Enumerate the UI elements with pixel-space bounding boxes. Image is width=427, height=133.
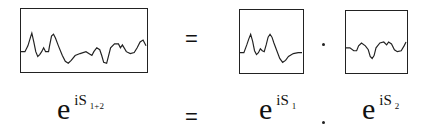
waveform-1-curve (240, 10, 303, 73)
term-2-exponent: iS (379, 92, 392, 108)
term-1-expression: eiS1 (259, 94, 296, 124)
product-dot-top (322, 43, 325, 46)
combined-waveform-box (20, 8, 148, 73)
lhs-subscript: 1+2 (90, 101, 104, 111)
term-1-subscript: 1 (292, 101, 297, 111)
term-1-base: e (259, 92, 272, 125)
term-2-expression: eiS2 (362, 94, 399, 124)
equals-sign-bottom: = (185, 106, 198, 128)
combined-waveform-curve (21, 9, 147, 72)
lhs-exponent: iS (74, 92, 87, 108)
term-2-base: e (362, 92, 375, 125)
waveform-2-box (345, 10, 408, 74)
waveform-2-curve (346, 11, 407, 73)
lhs-expression: eiS1+2 (57, 94, 104, 124)
term-2-subscript: 2 (395, 101, 400, 111)
term-1-exponent: iS (276, 92, 289, 108)
waveform-1-box (239, 9, 304, 74)
equals-sign-top: = (185, 28, 198, 50)
product-dot-bottom (322, 121, 325, 124)
lhs-base: e (57, 92, 70, 125)
